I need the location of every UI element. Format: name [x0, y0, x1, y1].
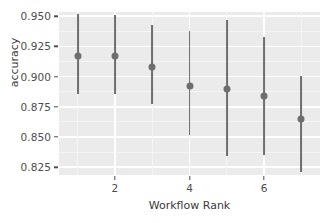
y-axis-tick-mark: [54, 76, 58, 77]
x-axis-tick-mark: [189, 176, 190, 180]
y-axis-tick-label: 0.925: [20, 40, 51, 52]
data-point: [74, 53, 81, 60]
y-axis-tick-label: 0.825: [20, 161, 51, 173]
error-bar: [300, 76, 302, 172]
data-point: [223, 85, 230, 92]
y-axis-tick-label: 0.850: [20, 131, 51, 143]
x-axis-tick-label: 4: [186, 182, 193, 194]
x-axis-tick-label: 2: [112, 182, 119, 194]
data-point: [111, 53, 118, 60]
x-axis-tick-mark: [114, 176, 115, 180]
y-axis-tick-mark: [54, 106, 58, 107]
plot-panel: [59, 12, 320, 175]
y-axis-title: accuracy: [8, 3, 21, 123]
x-axis-tick-mark: [263, 176, 264, 180]
y-axis-tick-mark: [54, 46, 58, 47]
y-axis-tick-label: 0.875: [20, 101, 51, 113]
y-axis-tick-label: 0.900: [20, 71, 51, 83]
data-point: [298, 115, 305, 122]
chart-container: 0.8250.8500.8750.9000.9250.950 246 Workf…: [0, 0, 320, 223]
y-axis-tick-mark: [54, 166, 58, 167]
x-axis-title: Workflow Rank: [59, 199, 320, 212]
data-point: [186, 83, 193, 90]
x-axis-tick-label: 6: [261, 182, 268, 194]
data-point: [149, 63, 156, 70]
y-axis-tick-label: 0.950: [20, 10, 51, 22]
y-axis-tick-mark: [54, 136, 58, 137]
y-axis-tick-mark: [54, 16, 58, 17]
data-point: [261, 92, 268, 99]
